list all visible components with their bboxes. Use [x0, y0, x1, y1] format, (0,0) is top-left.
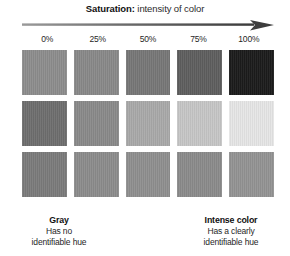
tick-label-4: 100% — [224, 33, 274, 47]
swatch-cell — [22, 50, 67, 95]
tick-label-3: 75% — [173, 33, 223, 47]
swatch-cell — [126, 152, 171, 197]
figure-title: Saturation: intensity of color — [0, 3, 290, 15]
swatch-row — [22, 50, 274, 95]
caption-intense-color-line1: Has a clearly — [172, 226, 290, 237]
swatch-cell — [229, 101, 274, 146]
color-swatch — [74, 50, 119, 95]
figure-title-term: Saturation: — [86, 3, 135, 14]
caption-gray-line1: Has no — [0, 226, 118, 237]
saturation-figure: Saturation: intensity of color 0% 25% 50… — [0, 0, 290, 256]
color-swatch — [177, 152, 222, 197]
color-swatch — [126, 101, 171, 146]
caption-gray-title: Gray — [0, 214, 118, 226]
color-swatch — [126, 50, 171, 95]
color-swatch — [229, 101, 274, 146]
swatch-cell — [126, 50, 171, 95]
swatch-cell — [74, 50, 119, 95]
color-swatch — [74, 152, 119, 197]
color-swatch — [177, 50, 222, 95]
swatch-cell — [177, 50, 222, 95]
swatch-row — [22, 152, 274, 197]
color-swatch — [22, 152, 67, 197]
caption-intense-color: Intense color Has a clearly identifiable… — [172, 214, 290, 248]
figure-title-description: intensity of color — [135, 3, 204, 14]
color-swatch — [229, 50, 274, 95]
color-swatch — [22, 101, 67, 146]
color-swatch — [177, 101, 222, 146]
tick-label-2: 50% — [123, 33, 173, 47]
swatch-cell — [22, 152, 67, 197]
swatch-cell — [74, 152, 119, 197]
saturation-tick-labels: 0% 25% 50% 75% 100% — [22, 33, 274, 47]
swatch-cell — [74, 101, 119, 146]
right-arrow-icon — [22, 18, 274, 32]
swatch-cell — [177, 101, 222, 146]
swatch-cell — [229, 152, 274, 197]
swatch-row — [22, 101, 274, 146]
caption-intense-color-line2: identifiable hue — [172, 237, 290, 248]
color-swatch — [229, 152, 274, 197]
tick-label-0: 0% — [22, 33, 72, 47]
color-swatch — [22, 50, 67, 95]
tick-label-1: 25% — [72, 33, 122, 47]
caption-gray-line2: identifiable hue — [0, 237, 118, 248]
swatch-cell — [22, 101, 67, 146]
swatch-cell — [177, 152, 222, 197]
caption-intense-color-title: Intense color — [172, 214, 290, 226]
swatch-cell — [229, 50, 274, 95]
swatch-grid — [22, 50, 274, 203]
figure-captions: Gray Has no identifiable hue Intense col… — [0, 214, 290, 256]
saturation-axis-arrow — [22, 18, 274, 32]
color-swatch — [126, 152, 171, 197]
swatch-cell — [126, 101, 171, 146]
color-swatch — [74, 101, 119, 146]
caption-gray: Gray Has no identifiable hue — [0, 214, 118, 248]
